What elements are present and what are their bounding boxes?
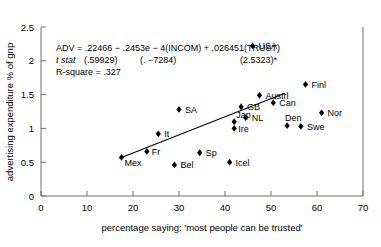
data-point-label: NL [252, 113, 264, 123]
scatter-chart-figure: 00.511.522.5 010203040506070 percentage … [0, 0, 381, 247]
data-point-label: Sp [206, 148, 217, 158]
data-point: SA [176, 105, 197, 115]
data-point-marker [285, 122, 290, 129]
annotation-equation: ADV = .22466 − .2453e − 4(INCOM) + .0264… [56, 43, 280, 53]
data-point-marker [156, 130, 161, 137]
data-point-label: Can [279, 98, 296, 108]
data-point-label: SA [185, 105, 197, 115]
x-tick-label: 50 [266, 202, 277, 213]
data-point-marker [176, 106, 181, 113]
x-tick-label: 0 [38, 202, 43, 213]
data-point-label: Finl [312, 80, 327, 90]
data-point-marker [172, 162, 177, 169]
data-point: Icel [227, 158, 250, 168]
data-point-marker [232, 125, 237, 132]
annotation-rsquare: R-square = .327 [56, 67, 121, 77]
data-point-label: It [164, 129, 170, 139]
x-tick-label: 10 [82, 202, 93, 213]
x-axis-title: percentage saying: 'most people can be t… [101, 222, 302, 233]
data-point: Finl [303, 80, 326, 90]
y-axis-ticks: 00.511.522.5 [21, 22, 46, 202]
data-point-label: Jap [236, 110, 251, 120]
data-point: It [156, 129, 170, 139]
data-point-marker [319, 109, 324, 116]
data-point-marker [119, 154, 124, 161]
y-tick-label: 2.5 [21, 22, 34, 33]
data-point: Sp [197, 148, 217, 158]
y-tick-label: 0 [29, 191, 34, 202]
data-point-label: Icel [236, 158, 250, 168]
y-axis-title: advertising expenditure % of gnp [4, 43, 15, 181]
data-point-label: Nor [328, 108, 343, 118]
regression-line-group [122, 93, 285, 157]
data-point: Fr [144, 147, 160, 157]
x-axis-ticks: 010203040506070 [38, 191, 368, 213]
data-point-label: Den [285, 113, 302, 123]
y-tick-label: 1 [29, 123, 34, 134]
data-point-label: Ire [238, 124, 249, 134]
y-tick-label: 2 [29, 55, 34, 66]
annotation-tstat-value-2: (. −7284) [140, 55, 176, 65]
data-point: Ire [232, 124, 249, 134]
y-tick-label: 1.5 [21, 89, 34, 100]
data-point-marker [298, 123, 303, 130]
data-point: Swe [298, 122, 324, 132]
chart-svg: 00.511.522.5 010203040506070 percentage … [0, 0, 381, 247]
regression-line [122, 93, 285, 157]
x-tick-label: 20 [128, 202, 139, 213]
data-point-marker [197, 149, 202, 156]
data-point: Bel [172, 160, 194, 170]
data-point: Mex [119, 154, 142, 168]
y-tick-label: 0.5 [21, 157, 34, 168]
data-point-label: Fr [152, 147, 161, 157]
x-tick-label: 60 [312, 202, 323, 213]
regression-annotation: ADV = .22466 − .2453e − 4(INCOM) + .0264… [56, 43, 280, 77]
data-point: Jap [232, 110, 251, 125]
x-tick-label: 70 [358, 202, 369, 213]
annotation-tstat-value-1: (.59929) [84, 55, 118, 65]
data-point: Nor [319, 108, 342, 118]
data-point-label: Bel [180, 160, 193, 170]
data-point-marker [227, 159, 232, 166]
x-tick-label: 30 [174, 202, 185, 213]
data-point-marker [303, 81, 308, 88]
data-point-marker [144, 148, 149, 155]
annotation-tstat-label: t stat [56, 55, 76, 65]
data-point-marker [257, 92, 262, 99]
annotation-tstat-value-3: (2.5323)* [240, 55, 278, 65]
data-point-label: Mex [125, 158, 143, 168]
x-tick-label: 40 [220, 202, 231, 213]
data-point-label: Swe [307, 122, 325, 132]
